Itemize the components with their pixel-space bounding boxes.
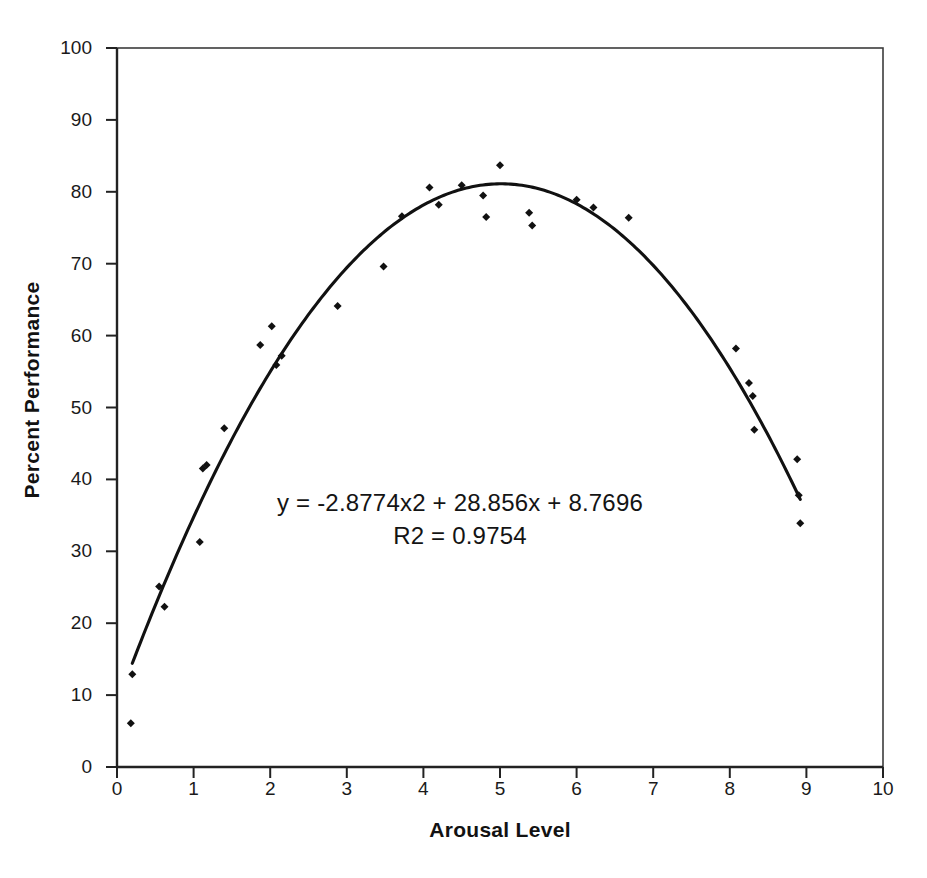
- r-squared-line: R2 = 0.9754: [200, 519, 720, 552]
- scatter-point: [268, 322, 276, 330]
- y-tick-label: 70: [38, 253, 92, 275]
- scatter-point: [793, 455, 801, 463]
- scatter-point: [732, 345, 740, 353]
- scatter-point: [496, 161, 504, 169]
- trendline-equation-annotation: y = -2.8774x2 + 28.856x + 8.7696 R2 = 0.…: [200, 486, 720, 552]
- y-tick-label: 100: [38, 37, 92, 59]
- scatter-point: [482, 213, 490, 221]
- scatter-point: [380, 263, 388, 271]
- plot-frame: [117, 48, 883, 767]
- y-tick-label: 30: [38, 540, 92, 562]
- axis-tick-marks: [106, 48, 883, 778]
- x-tick-label: 4: [403, 778, 443, 800]
- x-tick-label: 2: [250, 778, 290, 800]
- x-tick-label: 8: [710, 778, 750, 800]
- y-tick-label: 80: [38, 181, 92, 203]
- scatter-point: [256, 341, 264, 349]
- y-tick-label: 10: [38, 684, 92, 706]
- x-tick-label: 0: [97, 778, 137, 800]
- x-tick-label: 10: [863, 778, 903, 800]
- trendline-curve: [132, 184, 800, 663]
- equation-line: y = -2.8774x2 + 28.856x + 8.7696: [200, 486, 720, 519]
- y-axis-tick-labels: 0102030405060708090100: [30, 0, 92, 878]
- scatter-point: [334, 302, 342, 310]
- scatter-point: [528, 222, 536, 230]
- scatter-point: [796, 519, 804, 527]
- scatter-point: [750, 426, 758, 434]
- y-tick-label: 50: [38, 397, 92, 419]
- scatter-point: [128, 670, 136, 678]
- scatter-point: [625, 214, 633, 222]
- scatter-point: [745, 379, 753, 387]
- chart-figure: Percent Performance Arousal Level 010203…: [0, 0, 927, 878]
- scatter-point: [160, 603, 168, 611]
- x-tick-label: 9: [786, 778, 826, 800]
- scatter-point: [479, 191, 487, 199]
- x-axis-tick-labels: 012345678910: [0, 778, 927, 808]
- scatter-point: [426, 183, 434, 191]
- x-tick-label: 5: [480, 778, 520, 800]
- scatter-point: [435, 201, 443, 209]
- plot-area: [0, 0, 927, 878]
- x-tick-label: 7: [633, 778, 673, 800]
- scatter-point: [749, 392, 757, 400]
- scatter-point: [525, 209, 533, 217]
- scatter-point: [220, 424, 228, 432]
- x-tick-label: 1: [174, 778, 214, 800]
- y-tick-label: 0: [38, 756, 92, 778]
- y-tick-label: 90: [38, 109, 92, 131]
- x-tick-label: 3: [327, 778, 367, 800]
- y-tick-label: 40: [38, 468, 92, 490]
- x-tick-label: 6: [557, 778, 597, 800]
- y-tick-label: 60: [38, 325, 92, 347]
- y-tick-label: 20: [38, 612, 92, 634]
- scatter-point: [127, 719, 135, 727]
- x-axis-title: Arousal Level: [117, 818, 883, 842]
